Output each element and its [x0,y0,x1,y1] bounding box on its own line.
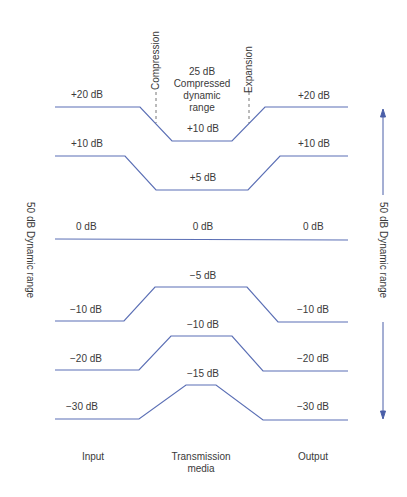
media-level-4: −10 dB [187,319,219,331]
compressed-range-line3: dynamic [174,90,231,102]
media-column-line1: Transmission [171,451,230,463]
compression-label: Compression [150,31,161,90]
compressed-range-line4: range [174,102,231,114]
compressed-range-line2: Compressed [174,78,231,90]
media-level-1: +5 dB [190,172,216,184]
output-level-5: −30 dB [297,401,329,413]
output-level-4: −20 dB [297,353,329,365]
left-dynamic-range-label: 50 dB Dynamic range [25,202,36,298]
output-level-2: 0 dB [303,221,324,233]
input-level-3: −10 dB [70,304,102,316]
level-line-0 [55,239,348,240]
output-level-0: +20 dB [298,90,330,102]
input-level-1: +10 dB [71,138,103,150]
output-level-1: +10 dB [298,138,330,150]
arrow-up-icon [381,109,386,117]
compressed-range-label: 25 dB Compressed dynamic range [174,66,231,114]
media-column-line2: media [171,463,230,475]
compressed-range-line1: 25 dB [174,66,231,78]
input-column-label: Input [82,451,104,463]
right-dynamic-range-label: 50 dB Dynamic range [378,202,389,298]
arrow-down-icon [381,411,386,419]
expansion-label: Expansion [243,46,254,93]
output-column-label: Output [298,451,328,463]
input-level-4: −20 dB [70,353,102,365]
media-level-2: 0 dB [193,221,214,233]
input-level-0: +20 dB [71,89,103,101]
media-column-label: Transmission media [171,451,230,475]
media-level-5: −15 dB [187,368,219,380]
input-level-2: 0 dB [76,221,97,233]
media-level-0: +10 dB [187,123,219,135]
output-level-3: −10 dB [297,304,329,316]
media-level-3: −5 dB [190,270,216,282]
input-level-5: −30 dB [66,401,98,413]
